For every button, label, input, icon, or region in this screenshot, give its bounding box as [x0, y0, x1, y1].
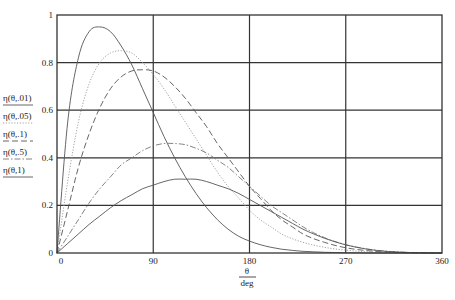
y-tick-label: 0.6 — [42, 105, 54, 115]
x-tick-label: 270 — [339, 256, 353, 266]
x-tick-label: 180 — [243, 256, 257, 266]
y-tick-label: 0.4 — [42, 153, 54, 163]
legend-item-label: η(θ,.1) — [3, 129, 27, 139]
legend-item-label: η(θ,.5) — [3, 147, 27, 157]
x-axis-label: θ deg — [239, 266, 256, 288]
x-axis-ticks: 090180270360 — [59, 256, 450, 266]
chart: 00.20.40.60.81 090180270360 η(θ,.01)η(θ,… — [0, 0, 455, 300]
x-tick-label: 90 — [149, 256, 159, 266]
y-tick-label: 1 — [49, 10, 54, 20]
legend-item-label: η(θ,.05) — [3, 111, 32, 121]
x-label-numerator: θ — [245, 266, 249, 276]
grid-lines — [57, 15, 442, 253]
x-label-denominator: deg — [241, 278, 254, 288]
y-tick-label: 0.2 — [42, 200, 53, 210]
x-tick-label: 360 — [435, 256, 449, 266]
legend-item-label: η(θ,.01) — [3, 93, 32, 103]
x-tick-label: 0 — [59, 256, 64, 266]
legend-item-label: η(θ,1) — [3, 165, 25, 175]
y-tick-label: 0 — [49, 248, 54, 258]
y-tick-label: 0.8 — [42, 58, 54, 68]
legend: η(θ,.01)η(θ,.05)η(θ,.1)η(θ,.5)η(θ,1) — [3, 93, 33, 177]
y-axis-ticks: 00.20.40.60.81 — [42, 10, 54, 258]
